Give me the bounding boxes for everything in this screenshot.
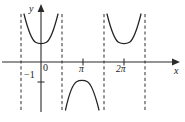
plot-canvas — [0, 0, 185, 122]
y-tick-label-neg-one: −1 — [24, 70, 35, 80]
x-tick-label-two-pi: 2π — [116, 65, 126, 75]
secant-graph-figure: y x 0 −1 π 2π — [0, 0, 185, 122]
x-axis-label: x — [174, 66, 178, 76]
x-tick-label-pi: π — [79, 65, 84, 75]
y-axis-arrow-icon — [38, 4, 45, 12]
secant-branch-right — [107, 14, 141, 44]
secant-branch-middle — [66, 80, 100, 110]
y-axis — [38, 4, 45, 112]
x-axis — [2, 58, 180, 65]
y-axis-label: y — [29, 4, 33, 14]
origin-label: 0 — [43, 63, 48, 73]
